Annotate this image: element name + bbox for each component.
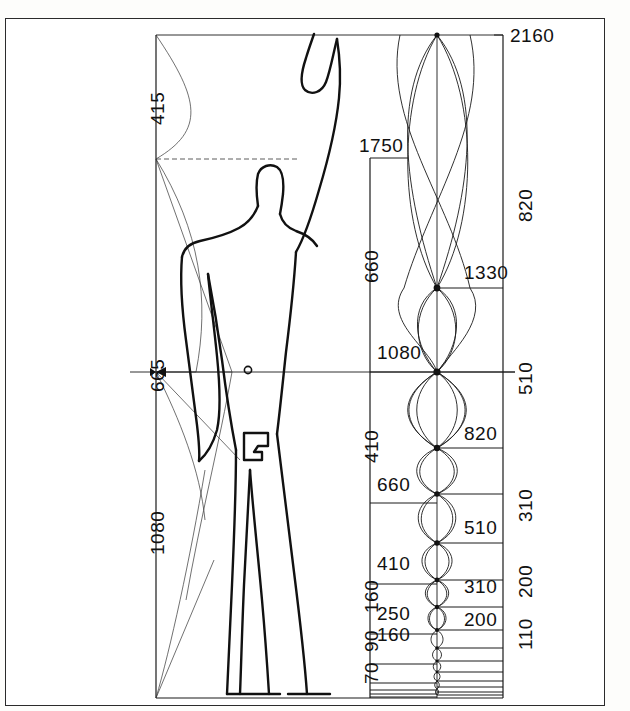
left-label-415: 415	[148, 92, 167, 125]
right-vlabel-310: 310	[516, 489, 535, 522]
right-label-200: 200	[464, 610, 497, 629]
right-vlabel-820: 820	[516, 189, 535, 222]
human-figure-outline	[181, 34, 340, 694]
right-vlabel-110: 110	[516, 618, 535, 650]
right-label-510: 510	[464, 518, 497, 537]
right-label-1330: 1330	[464, 263, 508, 282]
diagram-page: .thin { fill:none; stroke:#1a1a1a; strok…	[0, 0, 630, 711]
middle-vlabel-90: 90	[362, 630, 381, 652]
middle-label-1080: 1080	[377, 343, 421, 362]
middle-label-410: 410	[377, 554, 410, 573]
modulor-artwork: .thin { fill:none; stroke:#1a1a1a; strok…	[0, 0, 630, 711]
middle-vlabel-660: 660	[362, 250, 381, 283]
middle-label-1750: 1750	[359, 136, 403, 155]
right-label-820: 820	[464, 424, 497, 443]
middle-label-660: 660	[377, 475, 410, 494]
middle-vlabel-70: 70	[362, 662, 381, 684]
middle-vlabel-410: 410	[362, 430, 381, 463]
left-label-665: 665	[148, 359, 167, 392]
right-vlabel-200: 200	[516, 565, 535, 598]
left-label-1080: 1080	[148, 511, 167, 555]
right-label-2160: 2160	[510, 26, 554, 45]
middle-vlabel-160: 160	[362, 580, 381, 613]
right-vlabel-510: 510	[516, 362, 535, 395]
construction-axes	[130, 35, 515, 698]
right-label-310: 310	[464, 577, 497, 596]
